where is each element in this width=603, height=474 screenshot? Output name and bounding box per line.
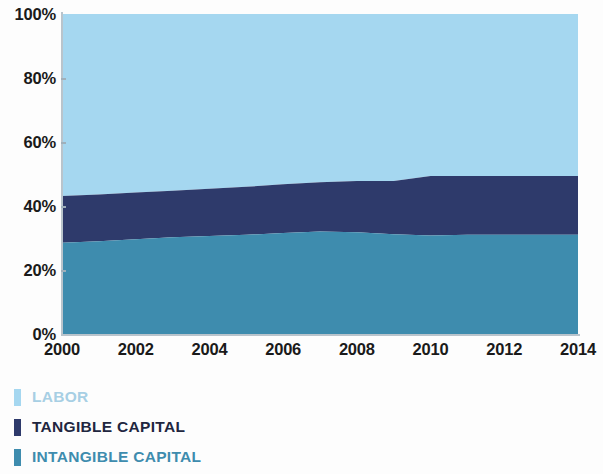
- legend-label-labor: LABOR: [32, 389, 89, 405]
- x-tick-label-2002: 2002: [101, 341, 171, 358]
- x-tick-label-2008: 2008: [322, 341, 392, 358]
- chart-legend: LABOR TANGIBLE CAPITAL INTANGIBLE CAPITA…: [14, 382, 434, 472]
- x-tick-label-2014: 2014: [543, 341, 603, 358]
- y-tick-label-60pct: 60%: [2, 134, 56, 151]
- y-axis-line: [61, 12, 63, 336]
- x-tick-label-2000: 2000: [27, 341, 97, 358]
- plot-area: [62, 14, 578, 334]
- plot-svg: [62, 14, 578, 334]
- area-series-labor: [62, 14, 578, 196]
- y-tick-mark: [61, 78, 66, 80]
- legend-swatch-tangible-capital: [14, 419, 21, 436]
- legend-item-tangible-capital: TANGIBLE CAPITAL: [14, 412, 434, 442]
- y-tick-mark: [61, 270, 66, 272]
- area-series-intangible-capital: [62, 232, 578, 334]
- y-tick-mark: [61, 206, 66, 208]
- legend-label-tangible-capital: TANGIBLE CAPITAL: [32, 419, 185, 435]
- y-tick-mark: [61, 142, 66, 144]
- x-tick-label-2004: 2004: [174, 341, 244, 358]
- x-tick-label-2012: 2012: [469, 341, 539, 358]
- legend-label-intangible-capital: INTANGIBLE CAPITAL: [32, 449, 201, 465]
- x-tick-label-2010: 2010: [396, 341, 466, 358]
- x-tick-label-2006: 2006: [248, 341, 318, 358]
- stacked-area-chart-figure: 0%20%40%60%80%100% 200020022004200620082…: [0, 0, 603, 474]
- legend-item-intangible-capital: INTANGIBLE CAPITAL: [14, 442, 434, 472]
- y-tick-label-100pct: 100%: [2, 6, 56, 23]
- x-axis-line: [61, 334, 580, 336]
- legend-item-labor: LABOR: [14, 382, 434, 412]
- legend-swatch-labor: [14, 389, 21, 406]
- y-tick-label-20pct: 20%: [2, 262, 56, 279]
- y-tick-label-80pct: 80%: [2, 70, 56, 87]
- legend-swatch-intangible-capital: [14, 449, 21, 466]
- x-axis-tick-labels: 20002002200420062008201020122014: [0, 341, 603, 369]
- y-tick-label-40pct: 40%: [2, 198, 56, 215]
